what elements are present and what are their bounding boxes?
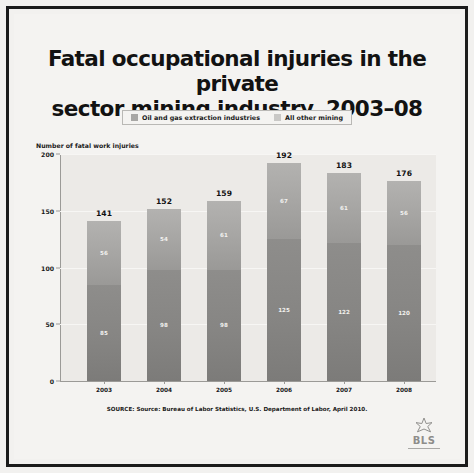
poster-frame: Fatal occupational injuries in the priva… — [0, 0, 474, 473]
bar-segment-value: 67 — [280, 198, 288, 204]
plot-area: 0501001502001415685200315254982004159619… — [60, 154, 436, 382]
bar-segment-value: 98 — [220, 322, 228, 328]
bar-group[interactable]: 14156852003 — [87, 221, 121, 381]
x-axis-tick-label: 2007 — [327, 387, 361, 393]
bar-segment-other-mining[interactable]: 98 — [207, 270, 241, 381]
legend-item-other-mining: All other mining — [274, 114, 343, 122]
bar-total-label: 183 — [327, 161, 361, 170]
bar-segment-value: 61 — [340, 205, 348, 211]
bar-segment-oil-gas[interactable]: 61 — [207, 201, 241, 270]
bar-total-label: 176 — [387, 169, 421, 178]
bar-segment-value: 122 — [338, 309, 350, 315]
y-axis-tick-mark — [56, 324, 60, 325]
x-axis-tick-mark — [404, 381, 405, 384]
chart-page: Fatal occupational injuries in the priva… — [14, 14, 460, 459]
bar-group[interactable]: 192671252006 — [267, 163, 301, 381]
x-axis-tick-label: 2004 — [147, 387, 181, 393]
bar-segment-other-mining[interactable]: 120 — [387, 245, 421, 381]
bar-segment-oil-gas[interactable]: 67 — [267, 163, 301, 239]
bls-logo: BLS — [402, 418, 446, 450]
bar-segment-other-mining[interactable]: 122 — [327, 243, 361, 381]
x-axis-tick-label: 2003 — [87, 387, 121, 393]
bar-total-label: 141 — [87, 209, 121, 218]
legend-swatch-other-mining — [274, 114, 281, 121]
y-axis-tick-mark — [56, 154, 60, 155]
bar-segment-other-mining[interactable]: 85 — [87, 285, 121, 381]
legend-swatch-oil-gas — [131, 114, 138, 121]
bar-segment-value: 85 — [100, 330, 108, 336]
bar-group[interactable]: 176561202008 — [387, 181, 421, 381]
bar-segment-oil-gas[interactable]: 56 — [87, 221, 121, 285]
bar-segment-value: 61 — [220, 232, 228, 238]
legend-label-oil-gas: Oil and gas extraction industries — [142, 114, 260, 122]
y-axis-tick-mark — [56, 381, 60, 382]
bar-segment-other-mining[interactable]: 125 — [267, 239, 301, 381]
x-axis-tick-label: 2006 — [267, 387, 301, 393]
y-axis-tick-mark — [56, 267, 60, 268]
bls-logo-text: BLS — [402, 435, 446, 446]
legend-item-oil-gas: Oil and gas extraction industries — [131, 114, 260, 122]
x-axis-tick-label: 2005 — [207, 387, 241, 393]
bar-segment-oil-gas[interactable]: 61 — [327, 173, 361, 242]
title-line-1: Fatal occupational injuries in the priva… — [48, 46, 426, 96]
bar-segment-value: 120 — [398, 310, 410, 316]
bar-group[interactable]: 183611222007 — [327, 173, 361, 381]
x-axis-tick-mark — [104, 381, 105, 384]
bar-segment-value: 56 — [400, 210, 408, 216]
x-axis-tick-mark — [224, 381, 225, 384]
bar-segment-oil-gas[interactable]: 56 — [387, 181, 421, 245]
bar-total-label: 159 — [207, 189, 241, 198]
logo-underline — [408, 448, 440, 449]
x-axis-tick-label: 2008 — [387, 387, 421, 393]
source-note: SOURCE: Source: Bureau of Labor Statisti… — [14, 406, 460, 412]
bar-segment-value: 56 — [100, 250, 108, 256]
bar-group[interactable]: 15961982005 — [207, 201, 241, 381]
x-axis-tick-mark — [344, 381, 345, 384]
bar-segment-value: 54 — [160, 236, 168, 242]
bar-segment-other-mining[interactable]: 98 — [147, 270, 181, 381]
x-axis-tick-mark — [164, 381, 165, 384]
chart-legend: Oil and gas extraction industries All ot… — [122, 110, 352, 125]
x-axis-line — [60, 381, 436, 382]
x-axis-tick-mark — [284, 381, 285, 384]
legend-label-other-mining: All other mining — [285, 114, 343, 122]
y-axis-tick-mark — [56, 210, 60, 211]
bar-segment-value: 125 — [278, 307, 290, 313]
gridline — [60, 154, 436, 155]
bar-segment-value: 98 — [160, 322, 168, 328]
bar-total-label: 192 — [267, 151, 301, 160]
y-axis-title: Number of fatal work injuries — [36, 142, 139, 149]
bar-group[interactable]: 15254982004 — [147, 209, 181, 382]
bar-total-label: 152 — [147, 197, 181, 206]
bar-segment-oil-gas[interactable]: 54 — [147, 209, 181, 270]
